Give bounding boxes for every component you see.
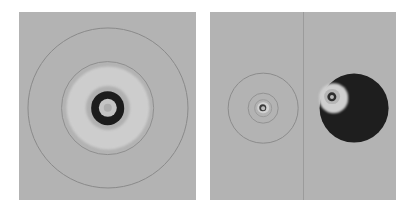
panel-split-divider xyxy=(303,12,304,200)
right-panel[interactable] xyxy=(210,12,396,200)
core-center-dot xyxy=(261,106,265,110)
figure-canvas xyxy=(0,0,414,209)
right-panel-right-half[interactable] xyxy=(303,12,396,200)
right-panel-left-half[interactable] xyxy=(210,12,303,200)
left-panel[interactable] xyxy=(19,12,196,200)
